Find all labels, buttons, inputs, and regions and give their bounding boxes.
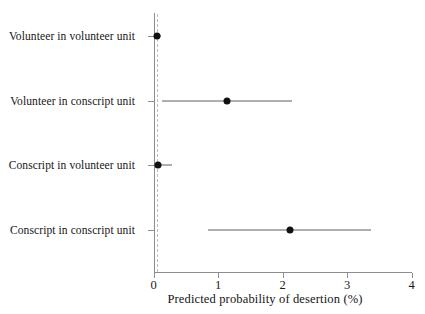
- y-axis-spine: [154, 13, 155, 273]
- category-label-volunteer-in-conscript-unit: Volunteer in conscript unit: [10, 95, 135, 107]
- category-label-conscript-in-conscript-unit: Conscript in conscript unit: [10, 224, 135, 236]
- x-tick-label: 0: [150, 278, 156, 293]
- category-label-volunteer-in-volunteer-unit: Volunteer in volunteer unit: [9, 30, 135, 42]
- x-tick-label: 4: [408, 278, 414, 293]
- y-tick-mark: [148, 101, 154, 102]
- zero-reference-line: [157, 14, 158, 272]
- x-tick-label: 1: [215, 278, 221, 293]
- point-estimate-marker: [287, 226, 294, 233]
- forest-plot-figure: Volunteer in volunteer unit Volunteer in…: [0, 0, 425, 314]
- point-estimate-marker: [155, 162, 162, 169]
- x-tick-label: 3: [344, 278, 350, 293]
- point-estimate-marker: [224, 97, 231, 104]
- y-tick-mark: [148, 230, 154, 231]
- x-tick-label: 2: [279, 278, 285, 293]
- x-axis-title: Predicted probability of desertion (%): [167, 292, 362, 307]
- point-estimate-marker: [154, 33, 161, 40]
- x-axis-title-wrapper: Predicted probability of desertion (%): [0, 292, 425, 307]
- category-label-conscript-in-volunteer-unit: Conscript in volunteer unit: [9, 159, 135, 171]
